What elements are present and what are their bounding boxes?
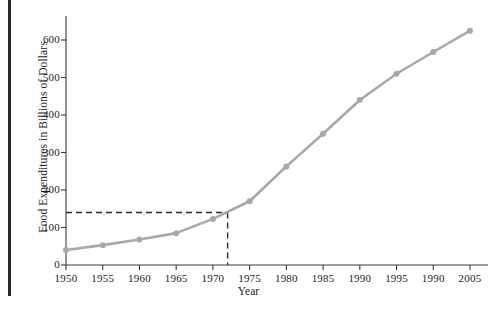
data-series-line	[66, 31, 470, 250]
data-point-markers	[63, 28, 473, 253]
y-axis-tick-label: 0	[18, 258, 60, 270]
y-axis-title-wrap: Food Expenditures in Billions of Dollars	[33, 17, 51, 257]
data-point-marker	[63, 247, 69, 253]
data-point-marker	[247, 198, 253, 204]
data-point-marker	[394, 71, 400, 77]
data-point-marker	[430, 49, 436, 55]
line-chart-plot	[0, 0, 497, 310]
axes	[61, 16, 488, 270]
chart-figure: 0100200300400500600 19501955196019651970…	[0, 0, 497, 310]
y-axis-ticks	[61, 40, 66, 265]
y-axis-title: Food Expenditures in Billions of Dollars	[37, 41, 49, 233]
data-point-marker	[173, 230, 179, 236]
data-point-marker	[320, 131, 326, 137]
data-point-marker	[357, 97, 363, 103]
x-axis-ticks	[66, 265, 470, 270]
x-axis-title: Year	[0, 285, 497, 297]
data-point-marker	[136, 237, 142, 243]
data-point-marker	[283, 163, 289, 169]
data-point-marker	[467, 28, 473, 34]
data-point-marker	[100, 242, 106, 248]
x-axis-tick-label: 2005	[445, 272, 495, 284]
data-point-marker	[210, 216, 216, 222]
